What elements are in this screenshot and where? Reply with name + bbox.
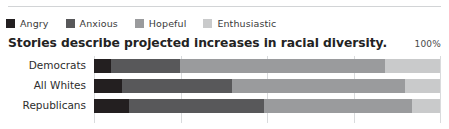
- bar-segment-anxious[interactable]: [111, 59, 180, 73]
- legend-swatch-icon: [6, 19, 15, 28]
- stacked-bar[interactable]: [94, 99, 440, 113]
- stacked-bar-chart: Angry Anxious Hopeful Enthusiastic Stori…: [0, 0, 449, 129]
- bar-row-democrats: Democrats: [0, 59, 449, 73]
- legend-swatch-icon: [135, 19, 144, 28]
- bar-segment-hopeful[interactable]: [264, 99, 413, 113]
- legend-swatch-icon: [203, 19, 212, 28]
- stacked-bar[interactable]: [94, 59, 440, 73]
- bar-segment-hopeful[interactable]: [232, 79, 405, 93]
- bar-segment-anxious[interactable]: [129, 99, 264, 113]
- bar-segment-angry[interactable]: [94, 79, 122, 93]
- bar-row-all-whites: All Whites: [0, 79, 449, 93]
- category-label: All Whites: [0, 78, 86, 92]
- legend-label: Angry: [20, 19, 49, 29]
- legend-label: Enthusiastic: [217, 19, 276, 29]
- category-label: Republicans: [0, 98, 86, 112]
- legend-swatch-icon: [66, 19, 75, 28]
- chart-title: Stories describe projected increases in …: [8, 36, 387, 51]
- legend-item-anxious[interactable]: Anxious: [66, 19, 118, 29]
- legend-label: Anxious: [80, 19, 118, 29]
- bar-segment-angry[interactable]: [94, 59, 111, 73]
- title-row: Stories describe projected increases in …: [8, 36, 441, 52]
- legend-item-hopeful[interactable]: Hopeful: [135, 19, 187, 29]
- bar-segment-enthusiastic[interactable]: [412, 99, 440, 113]
- bar-segment-enthusiastic[interactable]: [385, 59, 440, 73]
- bar-segment-anxious[interactable]: [122, 79, 233, 93]
- bar-row-republicans: Republicans: [0, 99, 449, 113]
- axis-max-label: 100%: [414, 39, 441, 50]
- bar-segment-hopeful[interactable]: [180, 59, 384, 73]
- legend-label: Hopeful: [149, 19, 187, 29]
- bar-segment-enthusiastic[interactable]: [405, 79, 440, 93]
- top-divider: [8, 6, 441, 7]
- legend-item-enthusiastic[interactable]: Enthusiastic: [203, 19, 276, 29]
- chart-legend: Angry Anxious Hopeful Enthusiastic: [6, 17, 293, 30]
- bar-segment-angry[interactable]: [94, 99, 129, 113]
- bar-rows: Democrats All Whites Republica: [0, 56, 449, 123]
- legend-item-angry[interactable]: Angry: [6, 19, 49, 29]
- stacked-bar[interactable]: [94, 79, 440, 93]
- plot: Democrats All Whites Republica: [0, 56, 449, 126]
- category-label: Democrats: [0, 58, 86, 72]
